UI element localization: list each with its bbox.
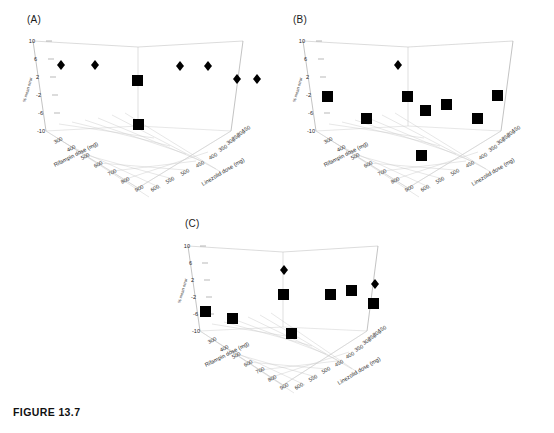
svg-text:-2: -2: [306, 92, 311, 98]
panel-a-label: (A): [27, 14, 41, 25]
svg-text:450: 450: [464, 159, 475, 169]
svg-text:800: 800: [120, 175, 131, 184]
svg-text:Linezolid dose (mg): Linezolid dose (mg): [470, 157, 515, 187]
svg-text:% mean error: % mean error: [292, 76, 304, 102]
svg-text:-10: -10: [37, 128, 45, 134]
panel-b-label: (B): [293, 14, 307, 25]
figure-caption: FIGURE 13.7: [13, 406, 80, 418]
panel-a-y-axis: 10 6 2 -2 -6 -10 % mean error: [22, 38, 60, 134]
svg-text:2: 2: [36, 74, 39, 80]
svg-text:400: 400: [477, 151, 488, 161]
svg-text:2: 2: [191, 277, 194, 283]
panel-b-plot: 10 6 2 -2 -6 -10 % mean error: [280, 0, 554, 215]
svg-text:-10: -10: [192, 328, 200, 334]
panel-b-y-axis: 10 6 2 -2 -6 -10 % mean error: [292, 38, 330, 134]
svg-text:500: 500: [320, 365, 331, 375]
panel-c-label: (C): [185, 218, 199, 229]
svg-text:-2: -2: [36, 92, 41, 98]
svg-text:-2: -2: [191, 294, 196, 300]
svg-text:150: 150: [376, 324, 387, 334]
panel-a-plot: 10 6 2 -2 -6 -10 % mean error: [0, 0, 280, 215]
panel-c: (C) 10 6 2 -2 -6 -10 % mean error: [140, 213, 420, 403]
svg-text:-6: -6: [38, 110, 43, 116]
panel-b: (B) 10 6 2 -2 -6 -10 % mean error: [280, 0, 554, 215]
svg-text:Linezolid dose (mg): Linezolid dose (mg): [336, 356, 381, 386]
svg-text:10: 10: [299, 38, 305, 44]
svg-text:10: 10: [184, 243, 190, 249]
svg-text:6: 6: [34, 56, 37, 62]
svg-text:550: 550: [164, 175, 175, 185]
panel-b-z-axis: 600 550 500 450 400 350 300 250 200 150 …: [419, 124, 521, 193]
svg-text:-6: -6: [193, 311, 198, 317]
svg-text:% mean error: % mean error: [22, 76, 34, 102]
svg-text:800: 800: [390, 175, 401, 184]
svg-text:300: 300: [53, 135, 64, 144]
svg-text:150: 150: [510, 124, 521, 134]
panel-a-markers: [57, 60, 261, 130]
svg-text:550: 550: [307, 373, 318, 383]
svg-text:600: 600: [149, 183, 160, 193]
svg-text:800: 800: [267, 373, 278, 382]
svg-text:6: 6: [189, 260, 192, 266]
svg-text:500: 500: [179, 167, 190, 177]
panel-c-x-axis: 300 400 500 600 700 800 900 Rifampin dos…: [204, 335, 290, 390]
svg-text:-6: -6: [308, 110, 313, 116]
svg-text:500: 500: [449, 167, 460, 177]
svg-text:400: 400: [207, 151, 218, 161]
panel-b-markers: [322, 60, 503, 161]
figure-13-7: (A) 10 6 2 -2 -6 -10 % mean error: [0, 0, 554, 433]
svg-text:600: 600: [293, 381, 304, 391]
svg-text:150: 150: [240, 124, 251, 134]
svg-text:2: 2: [306, 74, 309, 80]
svg-text:300: 300: [207, 335, 218, 344]
svg-text:700: 700: [255, 365, 266, 374]
svg-text:10: 10: [29, 38, 35, 44]
panel-c-z-axis: 600 550 500 450 400 350 300 250 200 150 …: [293, 324, 387, 391]
svg-text:-10: -10: [307, 128, 315, 134]
panel-a-z-axis: 600 550 500 450 400 350 300 250 200 150 …: [149, 124, 251, 193]
panel-c-y-axis: 10 6 2 -2 -6 -10 % mean error: [177, 243, 214, 334]
svg-text:900: 900: [279, 381, 290, 390]
svg-text:% mean error: % mean error: [177, 277, 189, 303]
panel-c-markers: [200, 265, 379, 339]
svg-text:300: 300: [323, 135, 334, 144]
svg-text:600: 600: [419, 183, 430, 193]
panel-a: (A) 10 6 2 -2 -6 -10 % mean error: [0, 0, 280, 215]
svg-text:550: 550: [434, 175, 445, 185]
svg-text:Linezolid dose (mg): Linezolid dose (mg): [200, 157, 245, 187]
svg-text:450: 450: [194, 159, 205, 169]
panel-c-plot: 10 6 2 -2 -6 -10 % mean error: [140, 213, 420, 403]
svg-text:6: 6: [304, 56, 307, 62]
svg-text:450: 450: [333, 358, 344, 368]
svg-text:400: 400: [344, 350, 355, 360]
